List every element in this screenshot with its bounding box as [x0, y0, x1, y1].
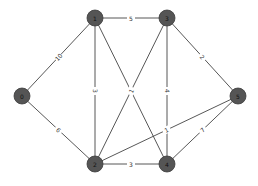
edge-0-1: 10: [22, 18, 95, 96]
node-label: 4: [165, 161, 169, 168]
edge-3-5: 2: [167, 18, 238, 96]
edge-weight-label: 3: [92, 87, 99, 95]
edge-0-2: 6: [22, 96, 95, 164]
edge-weight-text: 5: [129, 15, 133, 22]
node-label: 3: [165, 15, 169, 22]
edge-weight-label: 1: [126, 86, 136, 96]
edges-layer: 106537142173: [22, 15, 238, 168]
node-0: 0: [14, 88, 30, 104]
edge-weight-label: 1: [161, 125, 171, 135]
edge-weight-text: 4: [164, 89, 171, 93]
edge-weight-label: 5: [127, 15, 135, 22]
node-label: 2: [93, 161, 97, 168]
edge-weight-label: 4: [164, 87, 171, 95]
node-label: 5: [236, 93, 240, 100]
weighted-graph: 106537142173 012345: [0, 0, 258, 186]
node-2: 2: [87, 156, 103, 172]
edge-2-4: 3: [95, 161, 167, 168]
edge-1-3: 5: [95, 15, 167, 22]
edge-weight-text: 3: [92, 89, 99, 93]
edge-3-4: 4: [164, 18, 171, 164]
edge-1-2: 3: [92, 18, 99, 164]
edge-weight-label: 3: [127, 161, 135, 168]
edge-weight-text: 3: [129, 161, 133, 168]
node-label: 0: [20, 93, 24, 100]
edge-5-4: 7: [167, 96, 238, 164]
node-1: 1: [87, 10, 103, 26]
node-3: 3: [159, 10, 175, 26]
node-5: 5: [230, 88, 246, 104]
node-4: 4: [159, 156, 175, 172]
edge-5-2: 1: [95, 96, 238, 164]
node-label: 1: [93, 15, 97, 22]
